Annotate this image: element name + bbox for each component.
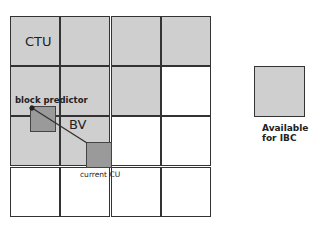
legend-swatch	[254, 66, 305, 117]
current-cu-label: current CU	[80, 170, 120, 179]
ctu-label: CTU	[25, 34, 52, 49]
block-predictor-label: block predictor	[15, 95, 88, 105]
legend-line-2: for IBC	[262, 133, 308, 143]
legend-text: Available for IBC	[262, 123, 308, 143]
bv-label: BV	[69, 117, 86, 132]
legend-line-1: Available	[262, 123, 308, 133]
